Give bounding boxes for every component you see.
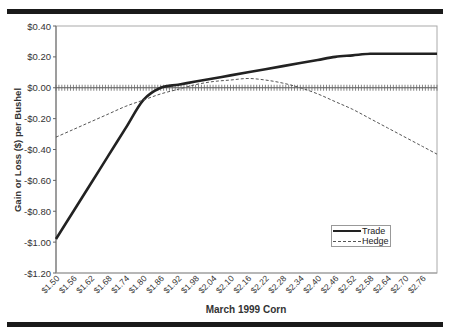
y-tick-label: -$0.80 — [24, 206, 51, 217]
y-tick-label: -$0.60 — [24, 175, 51, 186]
x-tick-label: $2.52 — [336, 273, 358, 295]
x-tick-label: $2.76 — [406, 273, 428, 295]
legend-item-trade: Trade — [332, 226, 390, 236]
x-tick-label: $1.68 — [92, 273, 114, 295]
y-tick-label: -$1.00 — [24, 237, 51, 248]
x-tick-label: $1.86 — [144, 273, 166, 295]
legend-item-hedge: Hedge — [332, 236, 390, 246]
x-tick-label: $2.04 — [196, 273, 218, 295]
chart-legend: Trade Hedge — [331, 225, 391, 247]
x-tick-label: $2.70 — [388, 273, 410, 295]
y-tick-label: $0.20 — [27, 51, 51, 62]
y-tick-label: -$1.20 — [24, 268, 51, 279]
x-tick-label: $2.34 — [284, 273, 306, 295]
series-line-hedge — [56, 78, 437, 154]
x-tick-label: $1.98 — [179, 273, 201, 295]
x-tick-label: $2.46 — [319, 273, 341, 295]
x-tick-label: $1.74 — [109, 273, 131, 295]
x-tick-label: $2.58 — [353, 273, 375, 295]
legend-label: Trade — [362, 226, 385, 236]
dashed-line-swatch-icon — [333, 241, 361, 242]
x-tick-label: $1.62 — [74, 273, 96, 295]
x-tick-label: $1.80 — [127, 273, 149, 295]
x-tick-label: $2.10 — [214, 273, 236, 295]
x-axis-title: March 1999 Corn — [206, 304, 287, 315]
y-tick-label: -$0.40 — [24, 144, 51, 155]
x-tick-label: $1.92 — [161, 273, 183, 295]
x-tick-label: $2.28 — [266, 273, 288, 295]
x-tick-label: $2.16 — [231, 273, 253, 295]
x-tick-label: $1.56 — [57, 273, 79, 295]
x-tick-label: $2.64 — [371, 273, 393, 295]
solid-line-swatch-icon — [333, 230, 361, 232]
y-axis-title: Gain or Loss ($) per Bushel — [12, 88, 23, 212]
line-chart: $0.40$0.20$0.00-$0.20-$0.40-$0.60-$0.80-… — [0, 0, 451, 333]
x-tick-label: $2.40 — [301, 273, 323, 295]
series-line-trade — [56, 54, 437, 239]
x-tick-label: $2.22 — [249, 273, 271, 295]
y-tick-label: $0.00 — [27, 82, 51, 93]
y-tick-label: -$0.20 — [24, 113, 51, 124]
y-tick-label: $0.40 — [27, 21, 51, 32]
legend-label: Hedge — [362, 236, 389, 246]
